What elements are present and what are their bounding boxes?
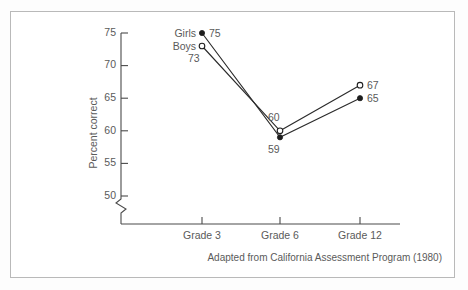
y-tick-label-70: 70 (104, 58, 116, 70)
source-caption: Adapted from California Assessment Progr… (207, 252, 442, 263)
series-line-boys (202, 46, 360, 131)
series-label-girls: Girls (174, 27, 196, 39)
x-category-label-grade-6: Grade 6 (261, 229, 299, 241)
y-tick-label-55: 55 (104, 156, 116, 168)
marker-girls-grade-12 (357, 96, 362, 101)
value-label-boys-grade-12: 67 (367, 79, 379, 91)
y-axis-title: Percent correct (87, 97, 99, 168)
marker-girls-grade-6 (277, 135, 282, 140)
x-category-label-grade-12: Grade 12 (338, 229, 382, 241)
marker-boys-grade-3 (199, 43, 205, 49)
series-label-boys: Boys (173, 40, 196, 52)
x-category-label-grade-3: Grade 3 (183, 229, 221, 241)
marker-boys-grade-12 (357, 82, 363, 88)
value-label-girls-grade-3: 75 (209, 27, 221, 39)
value-label-boys-grade-3: 73 (188, 52, 200, 64)
value-label-girls-grade-12: 65 (367, 92, 379, 104)
line-chart-plot: 75 70 65 60 55 50 Percent correct Grade … (0, 0, 468, 290)
series-line-girls (202, 33, 360, 137)
y-axis-break-icon (116, 196, 126, 218)
marker-girls-grade-3 (199, 30, 204, 35)
y-tick-label-65: 65 (104, 91, 116, 103)
figure-container: 75 70 65 60 55 50 Percent correct Grade … (0, 0, 468, 290)
y-tick-label-75: 75 (104, 26, 116, 38)
marker-boys-grade-6 (277, 128, 283, 134)
value-label-boys-grade-6: 60 (268, 111, 280, 123)
y-tick-label-60: 60 (104, 124, 116, 136)
value-label-girls-grade-6: 59 (268, 143, 280, 155)
y-tick-label-50: 50 (104, 189, 116, 201)
